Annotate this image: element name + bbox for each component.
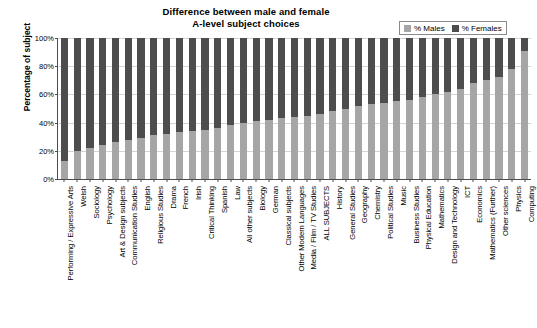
bar-segment-males — [521, 51, 528, 179]
bar-segment-females — [291, 38, 298, 117]
x-axis-tick-mark — [358, 179, 359, 182]
x-axis-tick-mark — [511, 179, 512, 182]
x-axis-tick-mark — [447, 179, 448, 182]
bar-segment-females — [470, 38, 477, 83]
bar-segment-females — [201, 38, 208, 130]
bar-segment-females — [265, 38, 272, 120]
bar-column — [214, 38, 221, 179]
x-axis-tick-mark — [128, 179, 129, 182]
bar-segment-males — [125, 140, 132, 179]
x-axis-tick-mark — [332, 179, 333, 182]
bar-column — [432, 38, 439, 179]
bar-column — [444, 38, 451, 179]
bar-segment-males — [406, 100, 413, 179]
chart-container: Difference between male and female A-lev… — [0, 0, 537, 328]
x-axis-tick-label: Critical Thinking — [207, 186, 216, 239]
x-axis-tick-mark — [383, 179, 384, 182]
x-axis-tick-label: Political Studies — [386, 186, 395, 239]
x-axis-tick-mark — [307, 179, 308, 182]
bar-segment-females — [368, 38, 375, 104]
chart-legend: % Males% Females — [399, 21, 507, 35]
bar-segment-males — [470, 83, 477, 179]
bar-column — [137, 38, 144, 179]
bar-segment-males — [304, 116, 311, 179]
x-axis-tick-mark — [64, 179, 65, 182]
bar-segment-females — [457, 38, 464, 89]
bar-segment-females — [125, 38, 132, 140]
bar-segment-females — [240, 38, 247, 123]
bar-segment-males — [176, 132, 183, 179]
x-axis-tick-label: ICT — [463, 186, 472, 198]
bar-column — [304, 38, 311, 179]
x-axis-tick-mark — [256, 179, 257, 182]
bar-segment-females — [137, 38, 144, 138]
bar-column — [342, 38, 349, 179]
x-axis-tick-label: Performing / Expressive Arts — [66, 186, 75, 280]
x-axis-tick-label: Biology — [258, 186, 267, 211]
x-axis-tick-label: Geography — [360, 186, 369, 223]
bar-segment-females — [483, 38, 490, 80]
y-axis-tick-label: 100% — [35, 34, 54, 43]
bar-segment-males — [355, 106, 362, 179]
y-axis-tick-mark — [55, 94, 58, 95]
x-axis-tick-mark — [524, 179, 525, 182]
x-axis-tick-label: Spanish — [220, 186, 229, 213]
x-axis-tick-mark — [281, 179, 282, 182]
y-axis-tick-mark — [55, 38, 58, 39]
x-axis-tick-label: Mathematics (Further) — [488, 186, 497, 260]
y-axis-tick-mark — [55, 66, 58, 67]
bar-segment-females — [380, 38, 387, 103]
x-axis-tick-mark — [115, 179, 116, 182]
y-axis-tick-label: 60% — [39, 90, 54, 99]
x-axis-tick-mark — [371, 179, 372, 182]
bar-segment-males — [61, 161, 68, 179]
x-axis-tick-mark — [153, 179, 154, 182]
bar-segment-females — [393, 38, 400, 101]
x-axis-tick-label: Drama — [169, 186, 178, 209]
bar-column — [368, 38, 375, 179]
bar-segment-females — [278, 38, 285, 118]
legend-swatch-icon — [452, 25, 459, 32]
x-axis-tick-label: Law — [233, 186, 242, 200]
bar-column — [163, 38, 170, 179]
bar-segment-females — [304, 38, 311, 116]
x-axis-tick-mark — [179, 179, 180, 182]
bar-segment-females — [253, 38, 260, 121]
bar-segment-females — [521, 38, 528, 51]
x-axis-tick-mark — [486, 179, 487, 182]
bar-column — [112, 38, 119, 179]
legend-item-females: % Females — [452, 24, 502, 33]
bar-segment-males — [150, 135, 157, 179]
bar-segment-females — [61, 38, 68, 161]
x-axis-tick-mark — [409, 179, 410, 182]
x-axis-tick-label: Mathematics — [437, 186, 446, 229]
x-axis-tick-mark — [77, 179, 78, 182]
bar-segment-females — [495, 38, 502, 77]
bar-segment-males — [457, 89, 464, 179]
bar-segment-males — [253, 121, 260, 179]
bar-column — [495, 38, 502, 179]
bar-segment-males — [316, 114, 323, 179]
bar-segment-males — [74, 151, 81, 179]
bar-column — [253, 38, 260, 179]
bar-segment-males — [368, 104, 375, 179]
bar-segment-females — [163, 38, 170, 134]
bar-segment-males — [291, 117, 298, 179]
x-axis-tick-label: Business Studies — [412, 186, 421, 243]
bar-column — [125, 38, 132, 179]
x-axis-tick-mark — [102, 179, 103, 182]
bar-column — [329, 38, 336, 179]
bar-segment-females — [406, 38, 413, 100]
x-axis-tick-label: Psychology — [105, 186, 114, 224]
bar-segment-males — [227, 125, 234, 179]
bar-segment-females — [508, 38, 515, 69]
x-axis-tick-label: Design and Technology — [450, 186, 459, 264]
bar-segment-males — [393, 101, 400, 179]
x-axis-tick-mark — [243, 179, 244, 182]
x-axis-tick-label: Sociology — [92, 186, 101, 218]
bar-segment-females — [316, 38, 323, 114]
x-axis-tick-label: Other sciences — [501, 186, 510, 236]
bar-segment-females — [444, 38, 451, 92]
bar-column — [316, 38, 323, 179]
y-axis-tick-label: 20% — [39, 146, 54, 155]
